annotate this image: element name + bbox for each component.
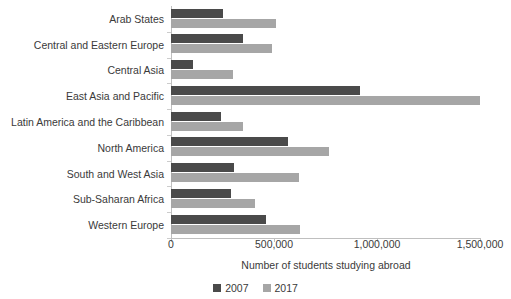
bar-2007 [171, 9, 223, 18]
x-tick-label: 1,000,000 [354, 238, 401, 250]
bar-2017 [171, 173, 299, 182]
bar-2007 [171, 189, 231, 198]
legend-label: 2007 [225, 283, 248, 294]
category-label: Sub-Saharan Africa [73, 194, 164, 205]
legend-label: 2017 [275, 283, 298, 294]
bar-2017 [171, 225, 300, 234]
bar-2007 [171, 86, 360, 95]
bar-group: Sub-Saharan Africa [171, 186, 481, 212]
category-label: Arab States [109, 14, 164, 25]
chart-legend: 20072017 [0, 283, 511, 294]
bar-2017 [171, 199, 255, 208]
category-label: Central Asia [107, 65, 164, 76]
category-label: Latin America and the Caribbean [11, 117, 164, 128]
bar-2017 [171, 19, 276, 28]
bar-2017 [171, 44, 272, 53]
category-label: East Asia and Pacific [66, 91, 164, 102]
bar-2017 [171, 70, 233, 79]
chart-title [0, 0, 511, 3]
x-tick-label: 0 [168, 238, 174, 250]
bar-2017 [171, 122, 243, 131]
bar-2007 [171, 60, 193, 69]
category-label: North America [97, 143, 164, 154]
bar-2007 [171, 112, 221, 121]
category-label: South and West Asia [67, 168, 164, 179]
bar-group: Latin America and the Caribbean [171, 109, 481, 135]
legend-item: 2007 [213, 283, 248, 294]
bar-2007 [171, 215, 266, 224]
bar-2017 [171, 96, 480, 105]
bar-2007 [171, 137, 288, 146]
bar-group: South and West Asia [171, 161, 481, 187]
category-label: Central and Eastern Europe [34, 39, 164, 50]
bar-group: Central Asia [171, 58, 481, 84]
bar-2017 [171, 147, 329, 156]
category-label: Western Europe [88, 220, 164, 231]
bar-2007 [171, 34, 243, 43]
bar-group: Arab States [171, 6, 481, 32]
bar-group: Western Europe [171, 212, 481, 238]
legend-swatch-icon [213, 284, 221, 292]
x-tick-label: 500,000 [255, 238, 293, 250]
bar-group: Central and Eastern Europe [171, 32, 481, 58]
bar-group: North America [171, 135, 481, 161]
bar-chart: Arab StatesCentral and Eastern EuropeCen… [0, 0, 511, 299]
plot-area: Arab StatesCentral and Eastern EuropeCen… [171, 6, 481, 238]
x-axis-title: Number of students studying abroad [171, 259, 481, 271]
x-tick-label: 1,500,000 [457, 238, 504, 250]
bar-2007 [171, 163, 234, 172]
x-axis-line [171, 238, 481, 239]
legend-swatch-icon [263, 284, 271, 292]
bar-group: East Asia and Pacific [171, 83, 481, 109]
legend-item: 2017 [263, 283, 298, 294]
